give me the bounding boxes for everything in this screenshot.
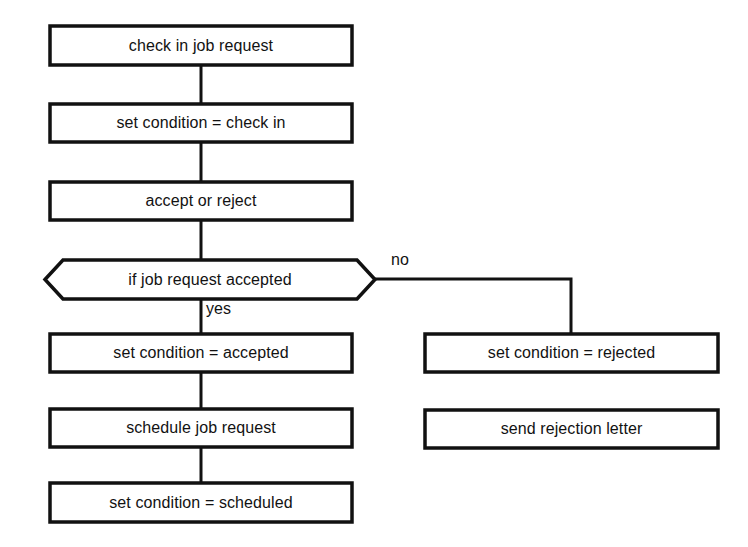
connector-decision-no-to-rejected xyxy=(375,279,571,334)
node-label-if-job-request-accepted: if job request accepted xyxy=(45,260,375,299)
node-label-check-in-job-request: check in job request xyxy=(50,26,352,65)
node-label-send-rejection-letter: send rejection letter xyxy=(425,410,718,448)
node-label-set-condition-scheduled: set condition = scheduled xyxy=(50,483,352,522)
edge-label-yes: yes xyxy=(206,300,231,318)
flowchart-canvas: check in job request set condition = che… xyxy=(0,0,748,547)
node-label-schedule-job-request: schedule job request xyxy=(50,409,352,447)
edge-label-no: no xyxy=(391,251,409,269)
node-label-set-condition-accepted: set condition = accepted xyxy=(50,334,352,372)
node-label-set-condition-check-in: set condition = check in xyxy=(50,104,352,142)
node-label-set-condition-rejected: set condition = rejected xyxy=(425,334,718,372)
node-label-accept-or-reject: accept or reject xyxy=(50,182,352,220)
